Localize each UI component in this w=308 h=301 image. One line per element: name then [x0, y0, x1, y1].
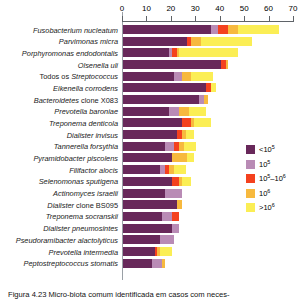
- legend-1e6[interactable]: 106: [246, 187, 306, 200]
- chart-legend: <105105105–106106>106: [246, 143, 306, 216]
- bar-segment: [165, 189, 182, 198]
- legend-swatch: [246, 189, 255, 198]
- legend-gt-1e6[interactable]: >106: [246, 201, 306, 214]
- bar-segment: [172, 224, 179, 233]
- bar-row: Todos os Streptococcus: [0, 71, 308, 82]
- bar-segment: [165, 142, 175, 151]
- bar-row: Olsenella uli: [0, 59, 308, 70]
- bar-row: Prevotella intermedia: [0, 246, 308, 257]
- stacked-bar: [123, 107, 206, 116]
- bar-segment: [191, 72, 213, 81]
- bar-segment: [182, 72, 192, 81]
- stacked-bar: [123, 259, 165, 268]
- category-label: Selenomonas sputigena: [39, 177, 118, 186]
- bar-segment: [162, 259, 164, 268]
- bar-segment: [238, 25, 280, 34]
- x-axis-tick-label: 0: [120, 4, 124, 13]
- stacked-bar: [123, 165, 187, 174]
- bar-segment: [172, 153, 187, 162]
- bar-segment: [123, 37, 187, 46]
- legend-label: 105–106: [259, 174, 286, 183]
- category-label: Prevotella baroniae: [54, 107, 118, 116]
- category-label: Todos os Streptococcus: [40, 72, 118, 81]
- bar-row: Pseudoramibacter alactolyticus: [0, 234, 308, 245]
- x-axis-tick-label: 50: [240, 4, 249, 13]
- bar-segment: [179, 107, 189, 116]
- bar-segment: [218, 25, 228, 34]
- x-axis-tick: [171, 16, 172, 22]
- bar-segment: [123, 165, 160, 174]
- bar-row: Prevotella baroniae: [0, 106, 308, 117]
- bar-segment: [123, 142, 165, 151]
- figure-caption: Figura 4.23 Micro-biota comum identifica…: [8, 290, 308, 299]
- stacked-bar: [123, 83, 216, 92]
- bar-row: Bacteroidetes clone X083: [0, 94, 308, 105]
- category-label: Olsenella uli: [78, 60, 118, 69]
- bar-segment: [123, 72, 174, 81]
- bar-segment: [160, 235, 175, 244]
- category-label: Bacteroidetes clone X083: [34, 95, 118, 104]
- legend-swatch: [246, 203, 255, 212]
- bar-segment: [184, 142, 196, 151]
- category-label: Filifactor alocis: [69, 165, 118, 174]
- bar-segment: [123, 189, 165, 198]
- bar-segment: [174, 165, 186, 174]
- legend-lt-1e5[interactable]: <105: [246, 143, 306, 156]
- bar-segment: [160, 247, 172, 256]
- x-axis-tick: [195, 16, 196, 22]
- legend-swatch: [246, 174, 255, 183]
- legend-swatch: [246, 160, 255, 169]
- bar-segment: [123, 60, 221, 69]
- x-axis-tick-label: 20: [166, 4, 175, 13]
- legend-1e5-1e6[interactable]: 105–106: [246, 172, 306, 185]
- legend-label: <105: [259, 145, 275, 154]
- bar-segment: [123, 177, 172, 186]
- stacked-bar-chart: 010203040506070 Fusobacterium nucleatumP…: [0, 0, 308, 301]
- bar-segment: [179, 48, 238, 57]
- x-axis-tick: [269, 16, 270, 22]
- stacked-bar: [123, 130, 194, 139]
- legend-label: 106: [259, 189, 270, 198]
- legend-label: 105: [259, 160, 270, 169]
- stacked-bar: [123, 95, 209, 104]
- bar-segment: [204, 95, 209, 104]
- bar-segment: [211, 25, 218, 34]
- bar-segment: [189, 107, 206, 116]
- bar-segment: [123, 95, 199, 104]
- bar-row: Dialister invisus: [0, 129, 308, 140]
- x-axis-tick: [146, 16, 147, 22]
- x-axis-tick-label: 70: [289, 4, 298, 13]
- stacked-bar: [123, 200, 182, 209]
- bar-segment: [182, 177, 192, 186]
- x-axis-tick: [293, 16, 294, 22]
- category-label: Dialister invisus: [67, 130, 118, 139]
- bar-segment: [172, 177, 179, 186]
- bar-segment: [186, 130, 193, 139]
- stacked-bar: [123, 153, 194, 162]
- bar-row: Porphyromonas endodontalis: [0, 47, 308, 58]
- stacked-bar: [123, 247, 172, 256]
- bar-segment: [123, 235, 160, 244]
- stacked-bar: [123, 177, 191, 186]
- bar-segment: [226, 60, 228, 69]
- stacked-bar: [123, 48, 238, 57]
- bar-segment: [123, 48, 169, 57]
- category-label: Prevotella intermedia: [49, 247, 118, 256]
- stacked-bar: [123, 142, 196, 151]
- bar-row: Treponema denticola: [0, 117, 308, 128]
- category-label: Treponema socranskii: [46, 212, 118, 221]
- x-axis-tick-label: 30: [191, 4, 200, 13]
- bar-segment: [123, 25, 211, 34]
- bar-segment: [182, 118, 192, 127]
- bar-row: Dialister pneumosintes: [0, 223, 308, 234]
- category-label: Dialister pneumosintes: [43, 224, 118, 233]
- bar-segment: [123, 107, 169, 116]
- legend-label: >106: [259, 203, 275, 212]
- bar-segment: [123, 118, 182, 127]
- bar-segment: [191, 37, 201, 46]
- bar-segment: [123, 212, 162, 221]
- legend-1e5[interactable]: 105: [246, 158, 306, 171]
- bar-segment: [123, 83, 206, 92]
- category-label: Pseudoramibacter alactolyticus: [16, 235, 118, 244]
- bar-row: Peptostreptococcus stomatis: [0, 258, 308, 269]
